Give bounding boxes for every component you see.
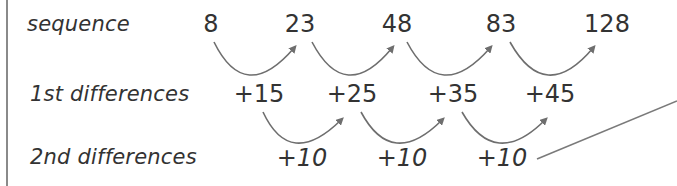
arrow-diff-3-4 xyxy=(462,112,545,143)
arrow-seq-3-4 xyxy=(407,42,490,75)
arrow-seq-1-2 xyxy=(214,42,294,75)
arrow-seq-4-5 xyxy=(510,42,593,75)
arrow-diff-2-3 xyxy=(361,112,442,143)
arrow-diff-1-2 xyxy=(263,112,341,143)
difference-arrows xyxy=(0,0,677,186)
arrow-seq-2-3 xyxy=(312,42,392,75)
pointer-line xyxy=(537,101,677,159)
